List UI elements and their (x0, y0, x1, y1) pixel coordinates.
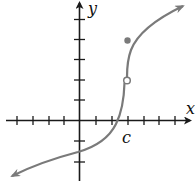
y-axis-label: y (87, 0, 98, 18)
curve-lower-branch (12, 83, 125, 176)
y-axis: y (74, 0, 98, 181)
filled-dot-point (124, 37, 130, 43)
c-label: c (122, 128, 131, 147)
open-circle-point (124, 77, 131, 84)
x-axis: x (6, 99, 195, 125)
curve-upper-branch (127, 6, 183, 77)
x-axis-label: x (186, 99, 195, 118)
function-graph: x y c (0, 0, 195, 181)
